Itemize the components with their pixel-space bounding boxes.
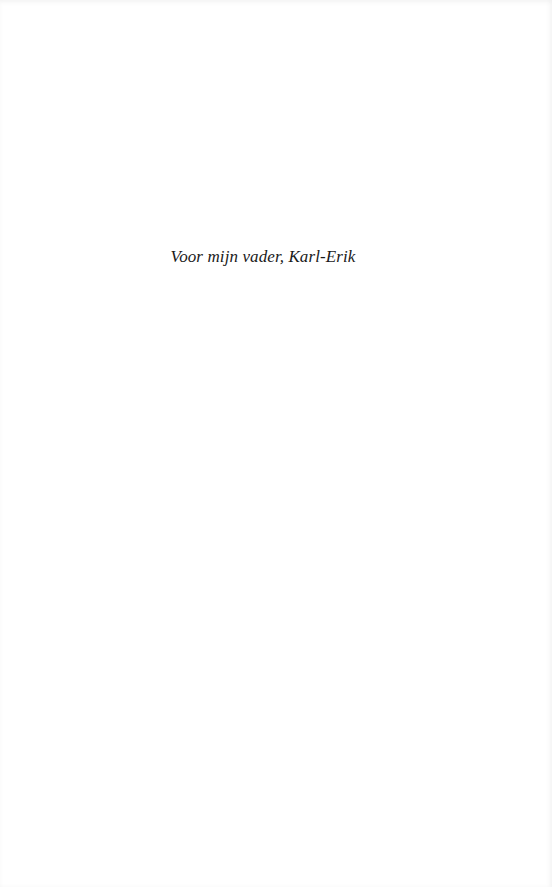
dedication-text: Voor mijn vader, Karl-Erik (0, 247, 526, 267)
book-page: Voor mijn vader, Karl-Erik (0, 0, 552, 887)
